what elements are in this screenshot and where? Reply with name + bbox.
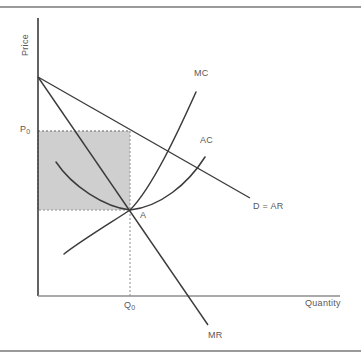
economics-diagram: Price Quantity P0 Q0 MC AC D = AR MR A: [0, 0, 361, 360]
price-p0-subscript: 0: [26, 128, 30, 135]
price-p0-label: P0: [20, 124, 31, 134]
x-axis-label: Quantity: [305, 298, 341, 308]
marginal-revenue-label: MR: [208, 330, 223, 340]
equilibrium-point-a-label: A: [140, 210, 146, 220]
y-axis-label: Price: [20, 34, 30, 56]
shaded-revenue-rectangle: [38, 131, 130, 210]
quantity-q0-subscript: 0: [131, 304, 135, 311]
marginal-cost-label: MC: [194, 68, 209, 78]
average-cost-label: AC: [200, 135, 213, 145]
demand-average-revenue-label: D = AR: [253, 201, 284, 211]
quantity-q0-label: Q0: [124, 300, 136, 310]
